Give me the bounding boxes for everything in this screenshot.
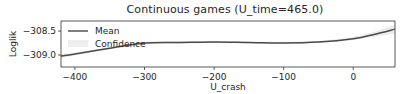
y-axis: −308.5−309.0 bbox=[23, 26, 61, 60]
legend: Mean Confidence bbox=[68, 26, 146, 49]
y-tick-label: −309.0 bbox=[23, 50, 57, 60]
x-tick-label: −400 bbox=[63, 72, 88, 82]
x-axis: −400−300−200−1000 bbox=[63, 67, 357, 82]
legend-mean-label: Mean bbox=[95, 26, 120, 36]
x-tick-label: −200 bbox=[202, 72, 227, 82]
legend-confidence-label: Confidence bbox=[95, 39, 146, 49]
x-tick-label: −300 bbox=[132, 72, 157, 82]
x-tick-label: −100 bbox=[271, 72, 296, 82]
y-tick-label: −308.5 bbox=[23, 26, 56, 36]
x-axis-label: U_crash bbox=[210, 82, 246, 92]
line-chart: −400−300−200−1000 −308.5−309.0 U_crash L… bbox=[0, 0, 403, 94]
legend-confidence-swatch bbox=[68, 40, 88, 47]
y-axis-label: Loglik bbox=[8, 30, 18, 57]
x-tick-label: 0 bbox=[350, 72, 356, 82]
